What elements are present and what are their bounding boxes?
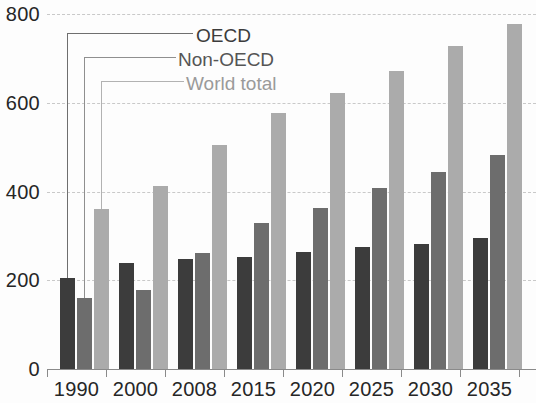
legend-leader-line-non-oecd (84, 57, 85, 298)
bar-non-oecd (372, 188, 387, 369)
legend-leader-line-non-oecd (84, 57, 176, 58)
x-axis-start-cap (47, 369, 48, 377)
bar-non-oecd (490, 155, 505, 369)
bar-oecd (473, 238, 488, 369)
bar-non-oecd (431, 172, 446, 369)
legend-leader-line-world-total (101, 81, 184, 82)
bar-oecd (414, 244, 429, 369)
x-tick-mark (401, 369, 402, 377)
bar-oecd (60, 278, 75, 369)
bar-world-total (94, 209, 109, 369)
legend-leader-line-world-total (101, 81, 102, 209)
bar-non-oecd (136, 290, 151, 369)
x-axis: 1990 2000 2008 2015 2020 2025 2030 2035 (47, 369, 536, 403)
plot-area (47, 0, 536, 369)
bar-non-oecd (254, 223, 269, 369)
x-tick-mark (224, 369, 225, 377)
legend-label-oecd: OECD (196, 26, 251, 45)
bar-world-total (271, 113, 286, 369)
y-tick-label: 0 (0, 359, 40, 379)
bar-oecd (355, 247, 370, 369)
bar-non-oecd (77, 298, 92, 369)
gridline-800 (47, 14, 536, 15)
x-tick-mark (342, 369, 343, 377)
x-tick-mark (106, 369, 107, 377)
x-tick-mark (283, 369, 284, 377)
x-tick-mark (460, 369, 461, 377)
bar-oecd (237, 257, 252, 369)
bar-oecd (296, 252, 311, 369)
x-tick-label-2035: 2035 (455, 379, 525, 399)
bar-oecd (119, 263, 134, 369)
bar-world-total (212, 145, 227, 369)
y-tick-label: 600 (0, 93, 40, 113)
bar-non-oecd (313, 208, 328, 369)
y-tick-label: 200 (0, 270, 40, 290)
bar-world-total (389, 71, 404, 369)
bar-world-total (153, 186, 168, 369)
legend-label-non-oecd: Non-OECD (178, 50, 274, 69)
legend-leader-line-oecd (67, 33, 193, 34)
bar-oecd (178, 259, 193, 369)
bar-chart: 800 600 400 200 0 (0, 0, 536, 403)
bar-world-total (507, 24, 522, 369)
bar-world-total (448, 46, 463, 369)
legend-label-world-total: World total (186, 74, 276, 93)
bar-non-oecd (195, 253, 210, 369)
x-axis-end-cap (519, 369, 520, 377)
bar-world-total (330, 93, 345, 369)
y-tick-label: 800 (0, 4, 40, 24)
legend-leader-line-oecd (67, 33, 68, 278)
x-tick-mark (165, 369, 166, 377)
y-tick-label: 400 (0, 182, 40, 202)
